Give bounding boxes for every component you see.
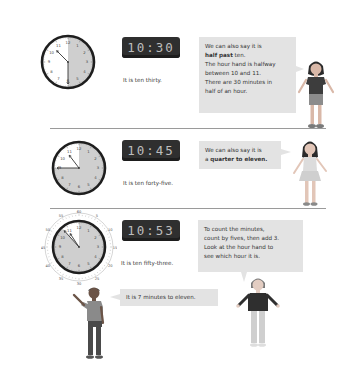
svg-text:50: 50 (46, 228, 51, 232)
girl-character (288, 137, 332, 209)
section-ten-fifty-three: 60510152025303540455055121234567891011 1… (0, 209, 342, 387)
boy-speech-bubble: It is 7 minutes to eleven. (120, 289, 218, 306)
svg-text:10: 10 (49, 50, 54, 55)
bubble-line: half past ten. (205, 51, 290, 60)
svg-text:11: 11 (56, 43, 61, 48)
digital-time: 10:30 (127, 40, 175, 55)
analog-clock: 121234567891011 (50, 139, 108, 197)
time-caption: It is ten thirty. (123, 77, 162, 83)
svg-text:10: 10 (108, 228, 113, 232)
bubble-line: We can also say it is (205, 146, 275, 155)
bubble-line: The hour hand is halfway (205, 60, 290, 69)
svg-text:12: 12 (66, 40, 71, 45)
bubble-line: between 10 and 11. (205, 69, 290, 78)
svg-text:55: 55 (59, 214, 64, 218)
svg-text:15: 15 (113, 246, 117, 250)
svg-text:11: 11 (67, 228, 72, 233)
svg-text:35: 35 (59, 277, 64, 281)
bubble-text: ten. (233, 52, 246, 58)
svg-text:25: 25 (95, 277, 100, 281)
digital-time: 10:53 (127, 223, 175, 238)
svg-text:40: 40 (46, 264, 51, 268)
bubble-line: To count the minutes, (204, 225, 297, 234)
svg-text:10: 10 (60, 235, 65, 240)
speech-bubble: We can also say it is a quarter to eleve… (199, 141, 281, 169)
bubble-line: There are 30 minutes in (205, 78, 290, 87)
svg-text:10: 10 (60, 156, 65, 161)
bubble-line: a quarter to eleven. (205, 155, 275, 164)
digital-clock: 10:45 (122, 140, 180, 161)
time-caption: It is ten fifty-three. (121, 260, 173, 266)
svg-text:12: 12 (77, 146, 82, 151)
speech-bubble: We can also say it is half past ten. The… (199, 37, 296, 113)
digital-time: 10:45 (127, 143, 175, 158)
digital-clock: 10:30 (122, 37, 180, 58)
section-ten-forty-five: 121234567891011 10:45 It is ten forty-fi… (0, 129, 342, 208)
svg-text:12: 12 (77, 225, 82, 230)
bubble-line: We can also say it is (205, 42, 290, 51)
svg-text:5: 5 (96, 214, 98, 218)
analog-clock-with-minute-ring: 60510152025303540455055121234567891011 (41, 209, 117, 285)
svg-text:60: 60 (77, 210, 82, 214)
speech-bubble: To count the minutes, count by fives, th… (198, 220, 303, 272)
bubble-line: see which hour it is. (204, 252, 297, 261)
child-character (234, 275, 282, 349)
time-caption: It is ten forty-five. (123, 180, 173, 186)
bubble-bold: quarter to eleven. (210, 156, 267, 162)
svg-text:20: 20 (108, 264, 113, 268)
bubble-line: Look at the hour hand to (204, 243, 297, 252)
bubble-line: half of an hour. (205, 87, 290, 96)
boy-character (70, 285, 112, 361)
svg-text:45: 45 (41, 246, 45, 250)
bubble-bold: half past (205, 52, 233, 58)
girl-character (296, 58, 336, 130)
digital-clock: 10:53 (122, 220, 180, 241)
section-ten-thirty: 121234567891011 10:30 It is ten thirty. … (0, 0, 342, 128)
bubble-line: count by fives, then add 3. (204, 234, 297, 243)
svg-text:11: 11 (67, 149, 72, 154)
analog-clock: 121234567891011 (39, 33, 97, 91)
bubble-line: It is 7 minutes to eleven. (126, 293, 212, 302)
